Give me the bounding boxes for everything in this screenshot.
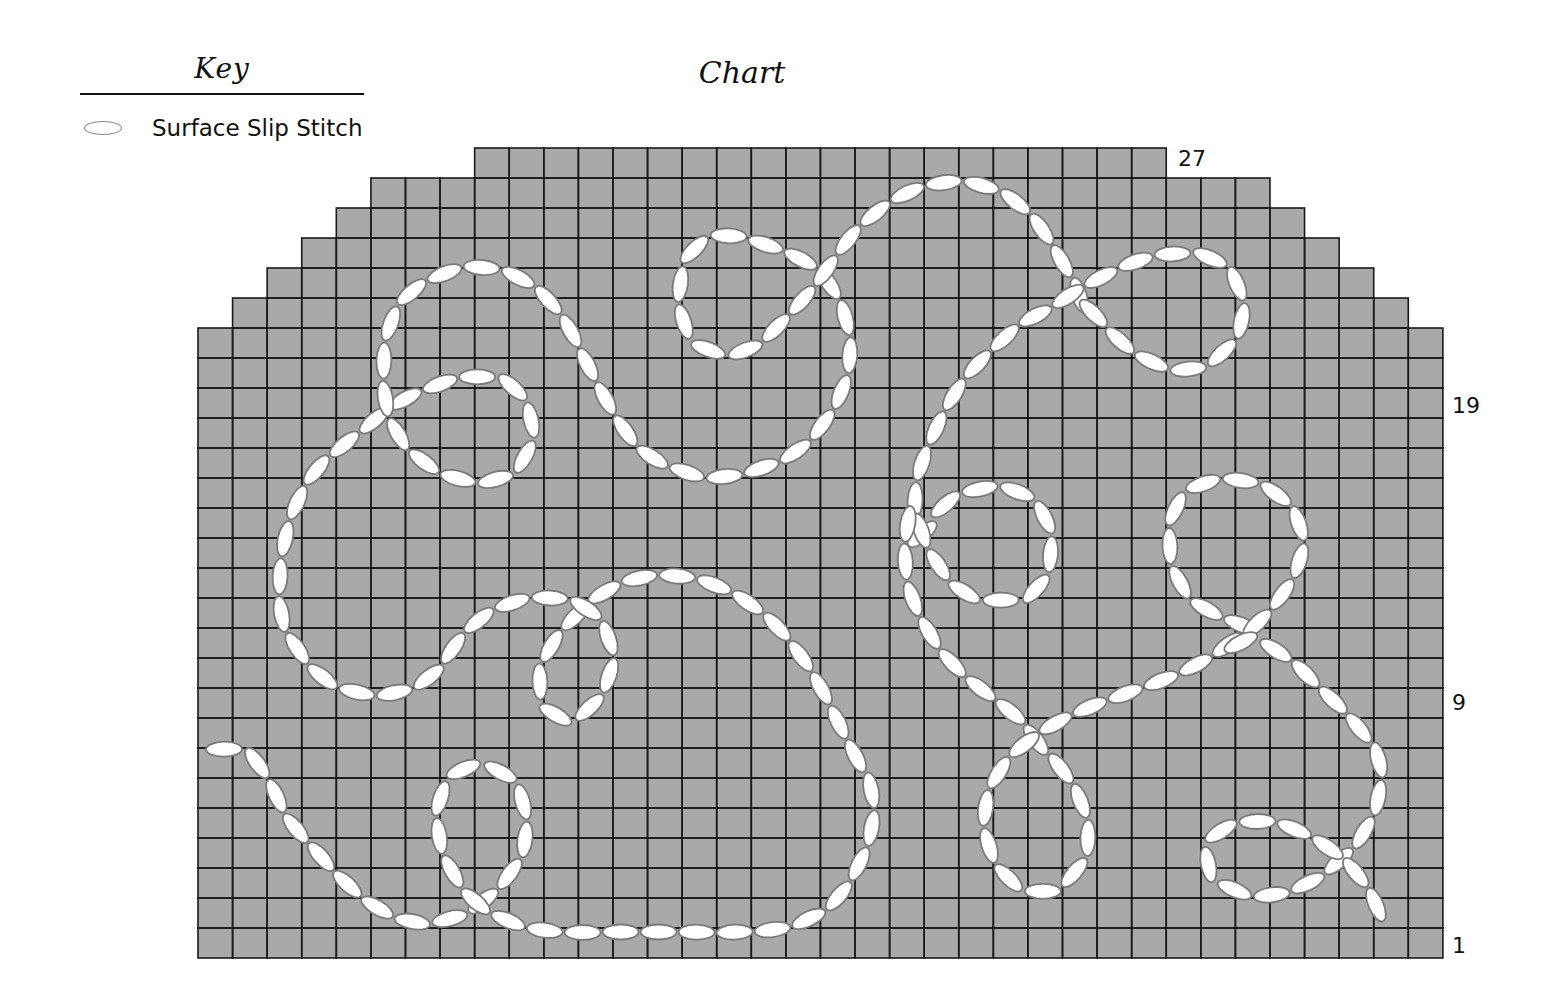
- row-label-1: 1: [1452, 933, 1466, 958]
- slip-stitch-icon: [206, 741, 242, 757]
- slip-stitch-icon: [983, 593, 1019, 608]
- slip-stitch-icon: [1025, 884, 1061, 899]
- slip-stitch-icon: [678, 924, 714, 940]
- slip-stitch-icon: [641, 925, 677, 940]
- slip-stitch-icon: [565, 925, 601, 940]
- slip-stitch-icon: [376, 343, 392, 379]
- slip-stitch-icon: [1239, 814, 1275, 830]
- slip-stitch-icon: [716, 924, 753, 940]
- row-label-27: 27: [1178, 146, 1206, 171]
- slip-stitch-icon: [459, 369, 495, 384]
- slip-stitch-icon: [603, 925, 639, 940]
- knitting-chart-grid: [0, 0, 1565, 995]
- row-label-9: 9: [1452, 690, 1466, 715]
- slip-stitch-icon: [532, 663, 548, 700]
- slip-stitch-icon: [1080, 820, 1096, 856]
- row-label-19: 19: [1452, 393, 1480, 418]
- slip-stitch-icon: [1162, 528, 1178, 565]
